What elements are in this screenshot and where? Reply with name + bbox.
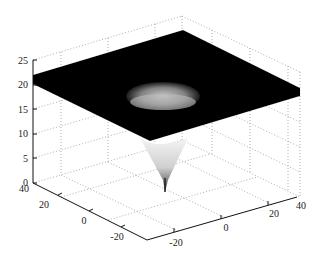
svg-text:10: 10 [18, 128, 28, 139]
svg-text:-20: -20 [110, 231, 123, 242]
left-axis [33, 183, 147, 240]
svg-text:-20: -20 [169, 237, 182, 248]
svg-text:20: 20 [18, 79, 28, 90]
surface-plot-figure: 0 5 10 15 20 25 40 20 0 -20 -20 0 20 40 [0, 0, 322, 259]
svg-text:0: 0 [224, 222, 229, 233]
right-axis-tick-labels: -20 0 20 40 [169, 200, 306, 248]
svg-text:40: 40 [296, 200, 306, 211]
svg-text:20: 20 [39, 199, 49, 210]
svg-text:25: 25 [18, 55, 28, 66]
svg-text:15: 15 [18, 104, 28, 115]
svg-text:20: 20 [269, 208, 279, 219]
svg-text:40: 40 [19, 183, 29, 194]
svg-text:5: 5 [23, 153, 28, 164]
surface-well-cone [140, 138, 188, 192]
z-tick-labels: 0 5 10 15 20 25 [18, 55, 28, 188]
plot-canvas: 0 5 10 15 20 25 40 20 0 -20 -20 0 20 40 [0, 0, 322, 259]
left-axis-tick-labels: 40 20 0 -20 [19, 183, 124, 242]
svg-text:0: 0 [82, 215, 87, 226]
